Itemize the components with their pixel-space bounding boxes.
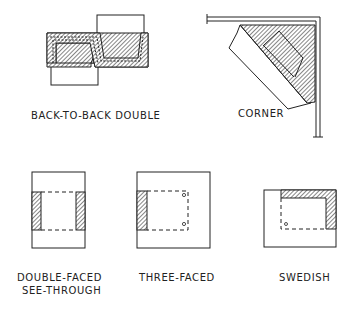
double-faced-figure	[32, 172, 85, 248]
double-faced-label-line1: DOUBLE-FACED	[17, 272, 102, 283]
three-faced-figure	[137, 172, 210, 248]
corner-label: CORNER	[238, 108, 284, 119]
back-to-back-double-label: BACK-TO-BACK DOUBLE	[31, 110, 161, 121]
double-faced-label-line2: SEE-THROUGH	[22, 285, 101, 296]
back-to-back-double-figure	[47, 15, 148, 85]
swedish-label: SWEDISH	[279, 272, 330, 283]
swedish-figure	[264, 190, 336, 247]
three-faced-label: THREE-FACED	[138, 272, 215, 283]
fireplace-diagram: BACK-TO-BACK DOUBLE CORNER DOUBLE-FACED …	[0, 0, 356, 310]
